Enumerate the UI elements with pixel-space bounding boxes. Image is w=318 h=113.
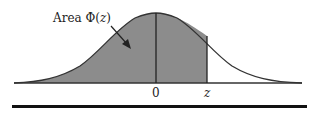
axis-zero-label: 0 — [152, 86, 160, 100]
axis-z-label: z — [203, 86, 211, 100]
normal-distribution-diagram: Area Φ(z) 0 z — [0, 0, 318, 113]
area-label: Area Φ(z) — [52, 11, 111, 25]
bottom-rule — [12, 105, 307, 108]
